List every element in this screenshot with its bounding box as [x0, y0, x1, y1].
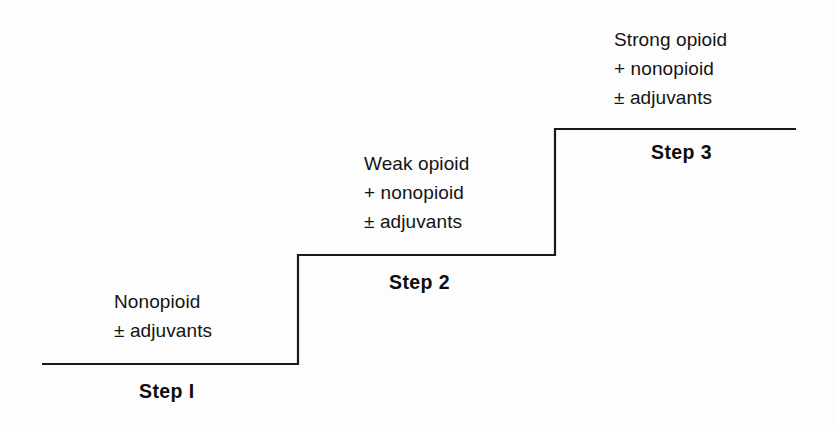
- step-2-drug-line-3: ± adjuvants: [364, 208, 469, 237]
- who-analgesic-ladder-diagram: Nonopioid ± adjuvants Step I Weak opioid…: [0, 0, 835, 430]
- step-3-drug-line-3: ± adjuvants: [614, 84, 727, 113]
- step-1-drug-block: Nonopioid ± adjuvants: [114, 288, 212, 346]
- step-2-label: Step 2: [389, 271, 450, 294]
- step-2-drug-line-1: Weak opioid: [364, 150, 469, 179]
- step-3-drug-line-1: Strong opioid: [614, 26, 727, 55]
- step-3-label: Step 3: [651, 141, 712, 164]
- step-1-label: Step I: [139, 380, 195, 403]
- step-1-drug-line-2: ± adjuvants: [114, 317, 212, 346]
- step-3-drug-block: Strong opioid + nonopioid ± adjuvants: [614, 26, 727, 113]
- step-1-drug-line-1: Nonopioid: [114, 288, 212, 317]
- step-2-drug-block: Weak opioid + nonopioid ± adjuvants: [364, 150, 469, 237]
- step-3-drug-line-2: + nonopioid: [614, 55, 727, 84]
- step-2-drug-line-2: + nonopioid: [364, 179, 469, 208]
